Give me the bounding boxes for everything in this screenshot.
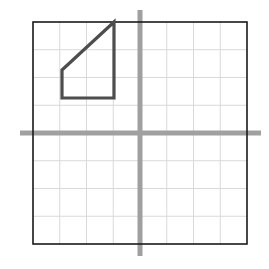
figure-canvas [0,0,269,269]
coordinate-plane-graphic [0,0,269,269]
